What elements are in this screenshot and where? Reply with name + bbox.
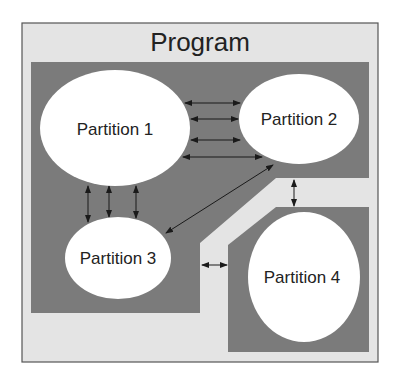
partition-3-label: Partition 3: [80, 249, 157, 268]
partition-1-label: Partition 1: [77, 120, 154, 139]
partition-4-label: Partition 4: [264, 268, 341, 287]
program-title: Program: [150, 27, 250, 57]
partition-diagram: Program Partition 1 Partition 2 Partitio…: [0, 0, 398, 379]
partition-2-label: Partition 2: [261, 110, 338, 129]
